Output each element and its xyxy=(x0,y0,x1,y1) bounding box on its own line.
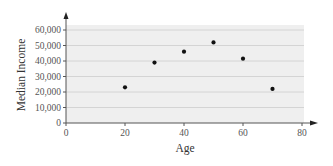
x-tick-label: 80 xyxy=(297,128,307,138)
data-point xyxy=(211,40,215,44)
y-axis-label: Median Income xyxy=(15,39,27,112)
x-axis-arrow-icon xyxy=(310,121,318,126)
y-tick-label: 30,000 xyxy=(35,72,61,82)
data-point xyxy=(182,50,186,54)
y-tick-label: 40,000 xyxy=(35,56,61,66)
y-axis-ticks: 010,00020,00030,00040,00050,00060,000 xyxy=(35,25,66,128)
y-tick-label: 0 xyxy=(56,118,61,128)
data-point xyxy=(123,85,127,89)
y-tick-label: 50,000 xyxy=(35,41,61,51)
x-axis-label: Age xyxy=(175,142,194,155)
y-tick-label: 20,000 xyxy=(35,87,61,97)
data-point xyxy=(152,60,156,64)
data-point xyxy=(241,57,245,61)
x-tick-label: 20 xyxy=(120,128,130,138)
y-tick-label: 10,000 xyxy=(35,103,61,113)
x-axis-ticks: 020406080 xyxy=(64,123,307,138)
y-axis-arrow-icon xyxy=(64,12,69,19)
plot-area xyxy=(66,25,304,123)
x-tick-label: 60 xyxy=(238,128,248,138)
scatter-chart: 010,00020,00030,00040,00050,00060,000 02… xyxy=(0,0,333,166)
data-point xyxy=(270,87,274,91)
x-tick-label: 0 xyxy=(64,128,69,138)
x-tick-label: 40 xyxy=(179,128,189,138)
y-tick-label: 60,000 xyxy=(35,25,61,35)
